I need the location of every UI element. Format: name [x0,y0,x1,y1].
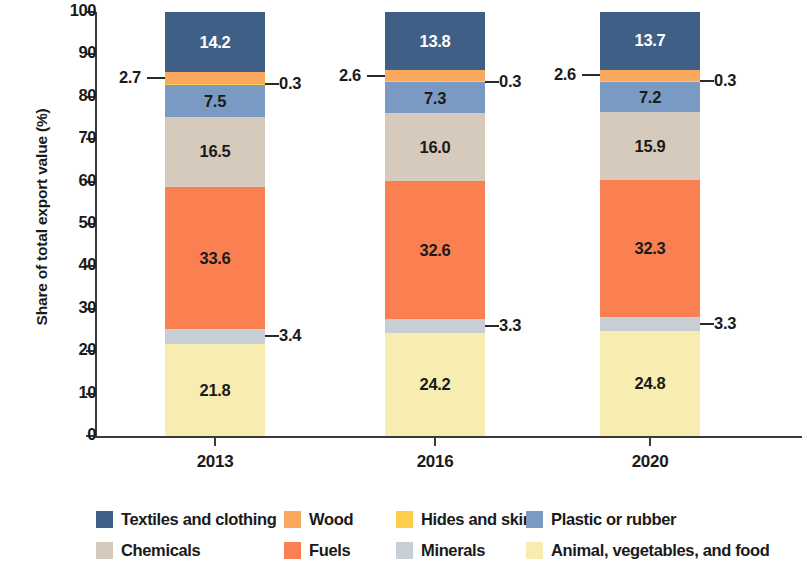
y-tick-label: 100 [60,1,96,20]
bar-segment[interactable] [600,81,700,82]
callout-leader-line [485,325,499,327]
legend-item[interactable]: Hides and skin [396,511,533,528]
stacked-bar-chart: Share of total export value (%) 01020304… [0,0,807,571]
bar-segment[interactable]: 16.5 [165,117,265,187]
legend-swatch-icon [284,511,301,528]
callout-value: 3.3 [714,315,736,332]
legend-label: Plastic or rubber [551,511,676,528]
bar-segment[interactable] [600,317,700,331]
legend-item[interactable]: Animal, vegetables, and food [526,542,770,559]
callout-value: 2.7 [93,69,141,86]
callout-leader-line [265,83,279,85]
bar-segment-value: 33.6 [200,250,231,267]
legend-label: Wood [309,511,353,528]
bar-segment[interactable] [165,84,265,85]
callout-leader-line [367,75,385,77]
bar-segment[interactable]: 14.2 [165,12,265,72]
y-axis-title: Share of total export value (%) [33,7,51,427]
bar-segment-value: 7.5 [204,93,226,110]
y-tick-label: 60 [60,171,96,190]
legend-item[interactable]: Textiles and clothing [96,511,277,528]
callout-value: 0.3 [279,75,301,92]
x-tick-label-2016: 2016 [375,452,495,472]
bar-segment[interactable] [385,81,485,82]
bar-segment[interactable]: 7.5 [165,85,265,117]
legend-label: Textiles and clothing [121,511,277,528]
bar-2016[interactable]: 24.232.616.07.313.8 [385,12,485,436]
bar-segment-value: 7.2 [639,89,661,106]
bar-segment[interactable]: 21.8 [165,344,265,436]
y-tick-label: 90 [60,43,96,62]
chart-legend: Textiles and clothingWoodHides and skinP… [96,511,796,569]
legend-label: Animal, vegetables, and food [551,542,770,559]
legend-swatch-icon [396,542,413,559]
bar-segment[interactable]: 32.3 [600,180,700,317]
x-axis-line [95,436,802,438]
bar-segment[interactable] [165,329,265,343]
y-tick-label: 80 [60,86,96,105]
legend-label: Fuels [309,542,350,559]
callout-value: 3.3 [499,317,521,334]
callout-value: 0.3 [714,72,736,89]
callout-value: 2.6 [313,67,361,84]
callout-value: 2.6 [528,66,576,83]
bar-segment[interactable]: 24.2 [385,333,485,436]
bar-segment-value: 14.2 [200,34,231,51]
legend-item[interactable]: Minerals [396,542,485,559]
bar-segment[interactable]: 16.0 [385,113,485,181]
legend-swatch-icon [284,542,301,559]
x-tick-mark [649,436,651,446]
y-tick-label: 50 [60,213,96,232]
bar-segment[interactable] [165,72,265,83]
y-tick-label: 40 [60,255,96,274]
bar-segment[interactable] [385,319,485,333]
y-tick-label: 70 [60,128,96,147]
bar-segment-value: 32.3 [635,240,666,257]
callout-value: 3.4 [279,327,301,344]
legend-swatch-icon [396,511,413,528]
callout-leader-line [147,77,165,79]
legend-item[interactable]: Wood [284,511,353,528]
legend-swatch-icon [96,511,113,528]
callout-leader-line [265,335,279,337]
x-tick-mark [434,436,436,446]
y-tick-label: 30 [60,298,96,317]
bar-segment[interactable]: 33.6 [165,187,265,329]
bar-segment[interactable]: 24.8 [600,331,700,436]
bar-segment[interactable] [600,70,700,81]
callout-leader-line [582,74,600,76]
bar-segment-value: 16.0 [420,139,451,156]
bar-2013[interactable]: 21.833.616.57.514.2 [165,12,265,436]
bar-segment-value: 32.6 [420,242,451,259]
bar-segment[interactable]: 7.2 [600,82,700,113]
bar-segment[interactable]: 13.8 [385,12,485,71]
bar-segment-value: 16.5 [200,143,231,160]
legend-swatch-icon [96,542,113,559]
bar-segment[interactable]: 15.9 [600,112,700,179]
legend-label: Minerals [421,542,485,559]
bar-segment[interactable]: 7.3 [385,82,485,113]
x-tick-mark [214,436,216,446]
bar-segment-value: 24.2 [420,376,451,393]
bar-segment-value: 7.3 [424,90,446,107]
y-tick-label: 10 [60,383,96,402]
legend-item[interactable]: Plastic or rubber [526,511,676,528]
legend-item[interactable]: Fuels [284,542,350,559]
bar-segment-value: 24.8 [635,375,666,392]
legend-swatch-icon [526,542,543,559]
bar-segment[interactable]: 32.6 [385,181,485,319]
bar-segment-value: 13.8 [420,33,451,50]
callout-leader-line [485,81,499,83]
callout-leader-line [700,323,714,325]
bar-segment-value: 21.8 [200,382,231,399]
legend-swatch-icon [526,511,543,528]
bar-2020[interactable]: 24.832.315.97.213.7 [600,12,700,436]
callout-value: 0.3 [499,73,521,90]
bar-segment-value: 13.7 [635,32,666,49]
x-tick-label-2020: 2020 [590,452,710,472]
bar-segment[interactable] [385,70,485,81]
bar-segment[interactable]: 13.7 [600,12,700,70]
legend-label: Hides and skin [421,511,533,528]
legend-item[interactable]: Chemicals [96,542,200,559]
x-tick-label-2013: 2013 [155,452,275,472]
